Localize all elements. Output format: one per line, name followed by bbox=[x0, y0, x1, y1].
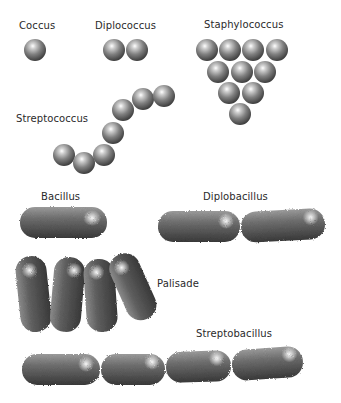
label-streptococcus: Streptococcus bbox=[16, 113, 88, 124]
staphylococcus-cells bbox=[196, 39, 288, 125]
streptococcus-cells bbox=[53, 85, 175, 174]
label-diplococcus: Diplococcus bbox=[95, 20, 156, 31]
bacillus-cell bbox=[20, 207, 107, 238]
label-staphylococcus: Staphylococcus bbox=[204, 19, 283, 30]
bacteria-shapes-diagram: Coccus Diplococcus Staphylococcus Strept… bbox=[0, 0, 341, 403]
coccus-cells bbox=[24, 39, 46, 61]
label-diplobacillus: Diplobacillus bbox=[203, 191, 268, 202]
streptobacillus-cells bbox=[22, 346, 304, 385]
label-coccus: Coccus bbox=[19, 20, 55, 31]
label-bacillus: Bacillus bbox=[41, 191, 80, 202]
label-streptobacillus: Streptobacillus bbox=[196, 328, 272, 339]
palisade-cells bbox=[14, 248, 161, 333]
label-palisade: Palisade bbox=[157, 278, 199, 289]
diplococcus-cells bbox=[103, 39, 148, 61]
diplobacillus-cells bbox=[158, 208, 326, 243]
